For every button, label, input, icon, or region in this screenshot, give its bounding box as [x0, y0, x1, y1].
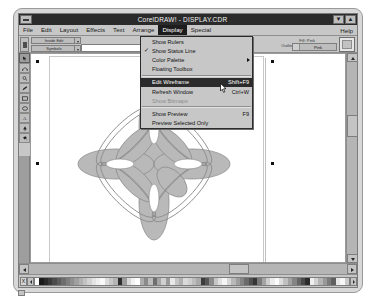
- rectangle-tool[interactable]: [19, 93, 30, 103]
- palette-scroll-left[interactable]: [27, 277, 34, 286]
- toolbox: A: [19, 53, 30, 143]
- menu-item-label: Show Rulers: [152, 39, 249, 45]
- svg-text:A: A: [23, 116, 27, 121]
- minimize-button[interactable]: ▼: [333, 15, 344, 24]
- menu-item-label: Show Bitmaps: [152, 98, 249, 104]
- menu-effects[interactable]: Effects: [82, 25, 109, 35]
- chevron-down-icon[interactable]: [74, 46, 80, 51]
- paint-bucket-icon: [22, 136, 28, 141]
- chevron-left-icon: [23, 268, 26, 272]
- text-tool[interactable]: A: [19, 113, 30, 123]
- color-preview-swatch-inner: [342, 40, 352, 49]
- menu-item-label: Show Preview: [152, 111, 236, 117]
- menu-layout[interactable]: Layout: [56, 25, 83, 35]
- menu-item-label: Floating Toolbox: [152, 66, 249, 72]
- fill-tool[interactable]: [19, 133, 30, 143]
- chevron-right-icon: [351, 268, 354, 272]
- menu-separator: [142, 106, 251, 108]
- menu-item-refresh-window[interactable]: Refresh Window Ctrl+W: [141, 87, 252, 96]
- menu-bar: File Edit Layout Effects Text Arrange Di…: [19, 25, 357, 36]
- menu-separator: [142, 75, 251, 77]
- text-a-icon: A: [22, 116, 28, 121]
- display-dropdown-menu[interactable]: Show Rulers ✓ Show Status Line Color Pal…: [140, 36, 253, 129]
- outline-pen-tool[interactable]: [19, 123, 30, 133]
- title-bar: CorelDRAW! - DISPLAY.CDR ▼ ▲: [19, 14, 357, 25]
- scroll-up-button[interactable]: [347, 53, 358, 62]
- scroll-right-button[interactable]: [347, 264, 357, 274]
- inside-edit-combo[interactable]: Inside Edit: [31, 37, 81, 44]
- selection-handle[interactable]: [36, 60, 39, 63]
- menu-help[interactable]: Help: [336, 27, 357, 34]
- selection-handle[interactable]: [271, 162, 274, 165]
- menu-edit[interactable]: Edit: [37, 25, 56, 35]
- screenshot-root: CorelDRAW! - DISPLAY.CDR ▼ ▲ File Edit L…: [0, 0, 376, 301]
- ellipse-tool[interactable]: [19, 103, 30, 113]
- node-edit-icon[interactable]: [20, 37, 29, 52]
- chevron-down-icon[interactable]: [74, 38, 80, 43]
- inside-edit-combo-value: Inside Edit: [32, 38, 74, 43]
- menu-item-label: Refresh Window: [152, 89, 226, 95]
- palette-swatch-71[interactable]: [345, 278, 349, 285]
- horizontal-scroll-thumb[interactable]: [229, 264, 249, 274]
- selection-handle[interactable]: [271, 60, 274, 63]
- menu-item-label: Preview Selected Only: [152, 120, 249, 126]
- status-box: [18, 290, 25, 296]
- selection-handle[interactable]: [36, 162, 39, 165]
- fill-button-label: Pink: [300, 45, 336, 50]
- horizontal-scrollbar[interactable]: [19, 263, 357, 274]
- ribbon-combo-group: Inside Edit Symbols: [31, 37, 81, 52]
- ellipse-icon: [22, 106, 28, 111]
- fill-color-button[interactable]: Pink: [292, 43, 337, 51]
- menu-item-edit-wireframe[interactable]: Edit Wireframe Shift+F9: [141, 78, 252, 87]
- menu-item-preview-selected-only[interactable]: Preview Selected Only: [141, 119, 252, 128]
- coreldraw-application-window: CorelDRAW! - DISPLAY.CDR ▼ ▲ File Edit L…: [18, 13, 358, 288]
- palette-swatch-strip[interactable]: [34, 277, 350, 286]
- mouse-cursor-icon: [220, 83, 227, 93]
- menu-item-shortcut: Ctrl+W: [226, 89, 249, 95]
- menu-item-label: Color Palette: [152, 57, 249, 63]
- menu-item-label: Edit Wireframe: [152, 79, 222, 85]
- scroll-left-button[interactable]: [19, 264, 29, 274]
- pen-nib-icon: [22, 126, 28, 131]
- menu-item-show-bitmaps: Show Bitmaps: [141, 96, 252, 105]
- pencil-tool[interactable]: [19, 83, 30, 93]
- shape-tool[interactable]: [19, 63, 30, 73]
- submenu-arrow-icon: [247, 58, 250, 62]
- left-ruler-strip: [19, 156, 30, 263]
- zoom-tool[interactable]: [19, 73, 30, 83]
- checkmark-icon: ✓: [144, 48, 149, 53]
- chevron-up-icon: [351, 57, 355, 60]
- maximize-button[interactable]: ▲: [345, 15, 356, 24]
- window-title: CorelDRAW! - DISPLAY.CDR: [32, 16, 333, 23]
- magnifier-icon: [22, 76, 28, 81]
- menu-file[interactable]: File: [19, 25, 37, 35]
- menu-arrange[interactable]: Arrange: [128, 25, 158, 35]
- ribbon-icon-buttons: [20, 37, 29, 52]
- vertical-scrollbar[interactable]: [346, 53, 357, 263]
- menu-item-show-rulers[interactable]: Show Rulers: [141, 37, 252, 46]
- pick-tool[interactable]: [19, 53, 30, 63]
- color-preview-swatch[interactable]: [339, 37, 355, 52]
- symbols-combo[interactable]: Symbols: [31, 45, 81, 52]
- menu-item-show-status-line[interactable]: ✓ Show Status Line: [141, 46, 252, 55]
- color-palette: X: [19, 274, 357, 287]
- menu-item-shortcut: F9: [236, 111, 249, 117]
- rectangle-icon: [22, 96, 28, 101]
- menu-item-floating-toolbox[interactable]: Floating Toolbox: [141, 65, 252, 74]
- pencil-icon: [22, 86, 28, 91]
- shape-tool-icon: [22, 66, 28, 71]
- palette-scroll-right[interactable]: [350, 277, 357, 286]
- menu-text[interactable]: Text: [109, 25, 128, 35]
- window-controls: ▼ ▲: [333, 15, 356, 24]
- fill-button-left-segment[interactable]: [293, 44, 300, 50]
- scroll-down-button[interactable]: [347, 254, 358, 263]
- menu-item-show-preview[interactable]: Show Preview F9: [141, 109, 252, 118]
- symbols-combo-value: Symbols: [32, 46, 74, 51]
- menu-item-label: Show Status Line: [152, 48, 249, 54]
- menu-display[interactable]: Display: [158, 25, 186, 35]
- system-menu-button[interactable]: [20, 15, 32, 24]
- menu-special[interactable]: Special: [187, 25, 215, 35]
- menu-item-color-palette[interactable]: Color Palette: [141, 55, 252, 64]
- no-fill-swatch[interactable]: X: [20, 277, 27, 286]
- vertical-scroll-thumb[interactable]: [347, 115, 358, 137]
